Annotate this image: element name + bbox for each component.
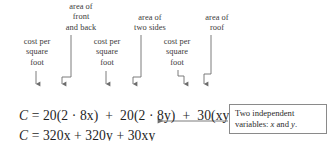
label-line: square <box>78 47 136 57</box>
label-line: roof <box>186 23 248 33</box>
equation-term-3: 30xy <box>128 128 156 141</box>
label-line: foot <box>78 58 136 68</box>
figure-container: area of front and back area of two sides… <box>0 0 335 141</box>
callout-prefix: variables: <box>235 119 271 129</box>
label-line: cost per <box>148 37 206 47</box>
connector-cost-arrow-3 <box>178 70 184 84</box>
label-line: cost per <box>78 37 136 47</box>
label-line: square <box>8 47 66 57</box>
label-line: foot <box>8 58 66 68</box>
label-line: cost per <box>8 37 66 47</box>
label-line: and back <box>46 23 116 33</box>
label-area-front-and-back: area of front and back <box>46 2 116 33</box>
equation-term-2: 320y <box>85 128 113 141</box>
equation-term-1: 320x <box>43 128 71 141</box>
callout-period: . <box>295 119 297 129</box>
equation-plus-sign: + <box>74 128 82 141</box>
label-line: front <box>46 12 116 22</box>
label-line: area of <box>117 13 183 23</box>
label-area-roof: area of roof <box>186 13 248 34</box>
label-cost-per-square-foot-3: cost per square foot <box>148 37 206 68</box>
equation-equals: = <box>28 128 43 141</box>
label-line: foot <box>148 58 206 68</box>
label-line: two sides <box>117 23 183 33</box>
callout-line-1: Two independent <box>235 108 321 119</box>
equation-line-2: C = 320x + 320y + 30xy <box>5 113 155 141</box>
label-line: area of <box>46 2 116 12</box>
callout-line-2: variables: x and y. <box>235 119 321 130</box>
label-cost-per-square-foot-2: cost per square foot <box>78 37 136 68</box>
label-cost-per-square-foot-1: cost per square foot <box>8 37 66 68</box>
label-area-two-sides: area of two sides <box>117 13 183 34</box>
label-line: square <box>148 47 206 57</box>
equation-lhs: C <box>19 128 28 141</box>
label-line: area of <box>186 13 248 23</box>
callout-conjunction: and <box>274 119 291 129</box>
callout-box-two-independent-variables: Two independent variables: x and y. <box>229 104 327 134</box>
